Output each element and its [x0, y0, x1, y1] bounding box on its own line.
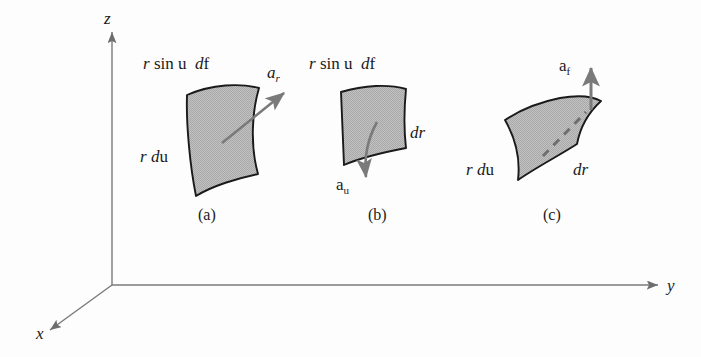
panel-b-top-phi: f	[369, 54, 375, 73]
y-axis-label: y	[667, 277, 675, 294]
panel-c-right-dimension-label: dr	[573, 161, 588, 178]
panel-c-right-d: d	[573, 160, 582, 179]
spherical-surface-elements-figure: z y x r sin u df r du ar (a) r sin u df …	[0, 0, 701, 357]
panel-a-top-sin: sin	[154, 54, 174, 73]
x-axis-label: x	[36, 325, 44, 342]
x-axis-line	[50, 285, 112, 330]
panel-a-patch-group	[187, 85, 284, 196]
panel-a-top-r: r	[143, 54, 150, 73]
panel-a-caption: (a)	[198, 207, 216, 223]
panel-c-aphi-vector-label: af	[559, 57, 570, 77]
panel-c-left-theta: u	[485, 160, 494, 179]
panel-a-ar-sub: r	[276, 72, 280, 84]
panel-a-ar-vector-label: ar	[267, 64, 280, 84]
panel-a-side-dimension-label: r du	[140, 148, 168, 165]
panel-b-caption: (b)	[368, 207, 387, 223]
panel-a-surface-patch	[187, 85, 259, 196]
panel-b-top-dimension-label: r sin u df	[309, 55, 375, 72]
panel-c-aphi-base: a	[559, 56, 567, 75]
panel-a-side-theta: u	[159, 147, 168, 166]
panel-a-top-phi: f	[203, 54, 209, 73]
panel-a-top-dimension-label: r sin u df	[143, 55, 209, 72]
panel-a-ar-base: a	[267, 63, 276, 82]
panel-c-left-r: r	[466, 160, 473, 179]
panel-c-caption: (c)	[543, 207, 561, 223]
panel-b-atheta-vector-label: au	[336, 176, 349, 196]
z-axis-label: z	[104, 10, 111, 27]
panel-b-atheta-sub: u	[344, 184, 350, 196]
panel-a-side-r: r	[140, 147, 147, 166]
panel-b-side-r: r	[419, 123, 426, 142]
panel-b-atheta-base: a	[336, 175, 344, 194]
panel-c-aphi-sub: f	[567, 65, 571, 77]
panel-b-side-d: d	[410, 123, 419, 142]
panel-b-side-dimension-label: dr	[410, 124, 425, 141]
panel-b-patch-group	[341, 86, 406, 177]
panel-c-left-dimension-label: r du	[466, 161, 494, 178]
panel-b-surface-patch	[341, 86, 406, 165]
panel-b-top-r: r	[309, 54, 316, 73]
panel-c-right-r: r	[582, 160, 589, 179]
panel-b-top-sin: sin	[320, 54, 340, 73]
